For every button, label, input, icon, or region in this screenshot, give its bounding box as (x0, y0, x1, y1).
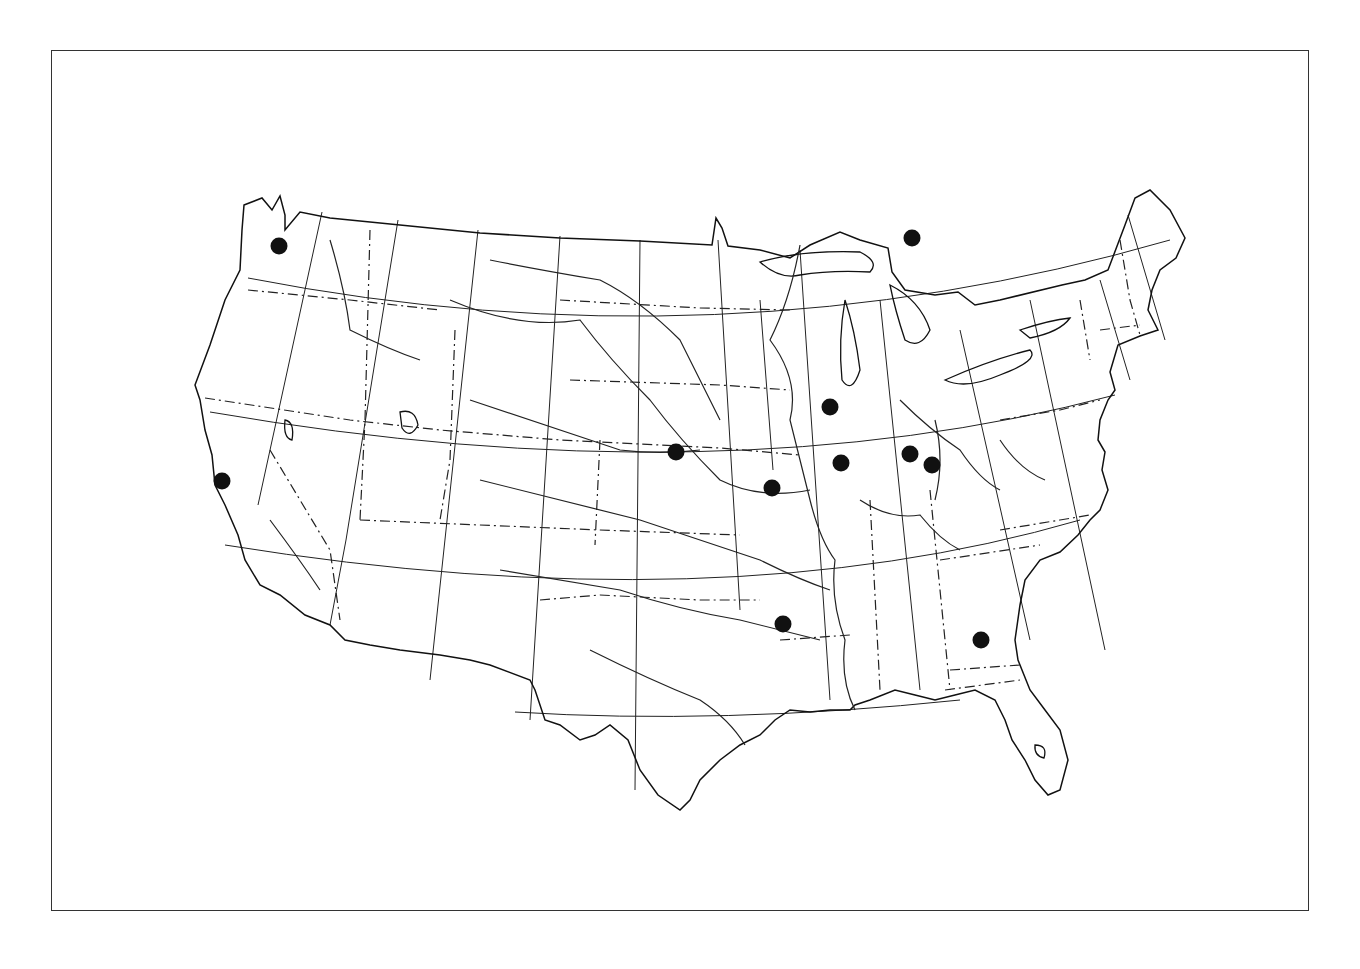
great-lakes (285, 252, 1070, 758)
us-map (0, 0, 1360, 969)
us-outline (195, 190, 1185, 810)
graticule (210, 212, 1170, 790)
